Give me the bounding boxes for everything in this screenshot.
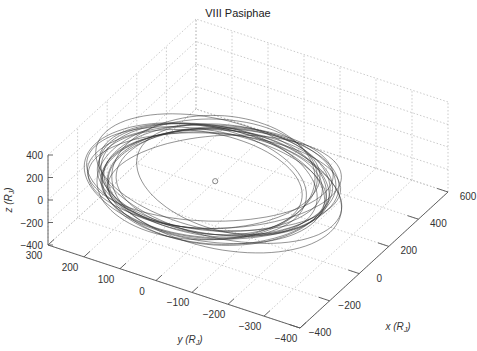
tick-label: 0 xyxy=(37,195,43,206)
tick-label: 200 xyxy=(400,245,417,256)
orbit-loop xyxy=(104,132,323,232)
tick-label: 0 xyxy=(376,273,382,284)
chart-title: VIII Pasiphae xyxy=(205,7,270,19)
tick-label: −400 xyxy=(275,333,298,344)
tick-label: −100 xyxy=(167,297,190,308)
tick-label: −300 xyxy=(239,321,262,332)
tick-label: 200 xyxy=(62,262,79,273)
z-axis-label: z (RJ) xyxy=(3,187,15,213)
tick-label: 200 xyxy=(26,173,43,184)
jupiter-marker xyxy=(213,179,218,184)
tick-label: 100 xyxy=(98,274,115,285)
tick-label: 0 xyxy=(139,286,145,297)
3d-orbit-plot: VIII Pasiphae 4002000−200−4003002001000−… xyxy=(0,0,477,351)
tick-label: −200 xyxy=(338,300,361,311)
tick-label: 400 xyxy=(430,218,447,229)
y-axis-label: y (RJ) xyxy=(176,334,202,346)
tick-label: 400 xyxy=(26,150,43,161)
tick-label: −200 xyxy=(20,218,43,229)
tick-label: 600 xyxy=(460,191,477,202)
axes xyxy=(48,155,448,328)
tick-label: −400 xyxy=(309,327,332,338)
tick-label: −200 xyxy=(203,309,226,320)
tick-label: 300 xyxy=(26,250,43,261)
x-axis-label: x (RJ) xyxy=(384,321,410,333)
